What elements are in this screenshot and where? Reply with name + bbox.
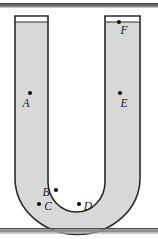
ground-bar (0, 228, 158, 234)
ceiling-bar (0, 3, 158, 7)
tube-inner-void (48, 14, 105, 212)
u-tube-figure: A B C D E F (0, 0, 158, 239)
point-dot-D (77, 202, 81, 206)
u-tube-diagram-svg: A B C D E F (0, 0, 158, 239)
point-label-A: A (21, 97, 30, 109)
point-label-C: C (44, 200, 52, 212)
point-dot-A (28, 91, 32, 95)
point-dot-B (54, 188, 58, 192)
point-label-D: D (83, 200, 93, 212)
point-dot-C (37, 202, 41, 206)
point-dot-E (118, 91, 122, 95)
point-label-F: F (119, 24, 128, 36)
point-label-E: E (119, 97, 127, 109)
point-label-B: B (42, 186, 49, 198)
